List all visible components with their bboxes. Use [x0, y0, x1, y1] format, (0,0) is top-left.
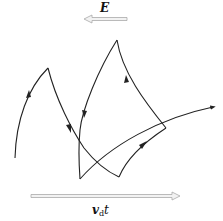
electric-field-label: E	[100, 2, 109, 14]
time-symbol: t	[104, 203, 109, 217]
drift-displacement-label: vdt	[92, 204, 109, 218]
arrow-up-icon	[26, 90, 31, 98]
drift-displacement-vector	[31, 192, 180, 200]
direction-arrows	[26, 75, 147, 149]
arrow-up-icon	[124, 75, 129, 83]
electric-field-vector	[84, 15, 127, 23]
particle-trajectory	[15, 40, 213, 179]
drift-diagram	[0, 0, 223, 221]
drift-velocity-symbol: v	[92, 203, 99, 217]
arrow-down-icon	[66, 124, 71, 133]
